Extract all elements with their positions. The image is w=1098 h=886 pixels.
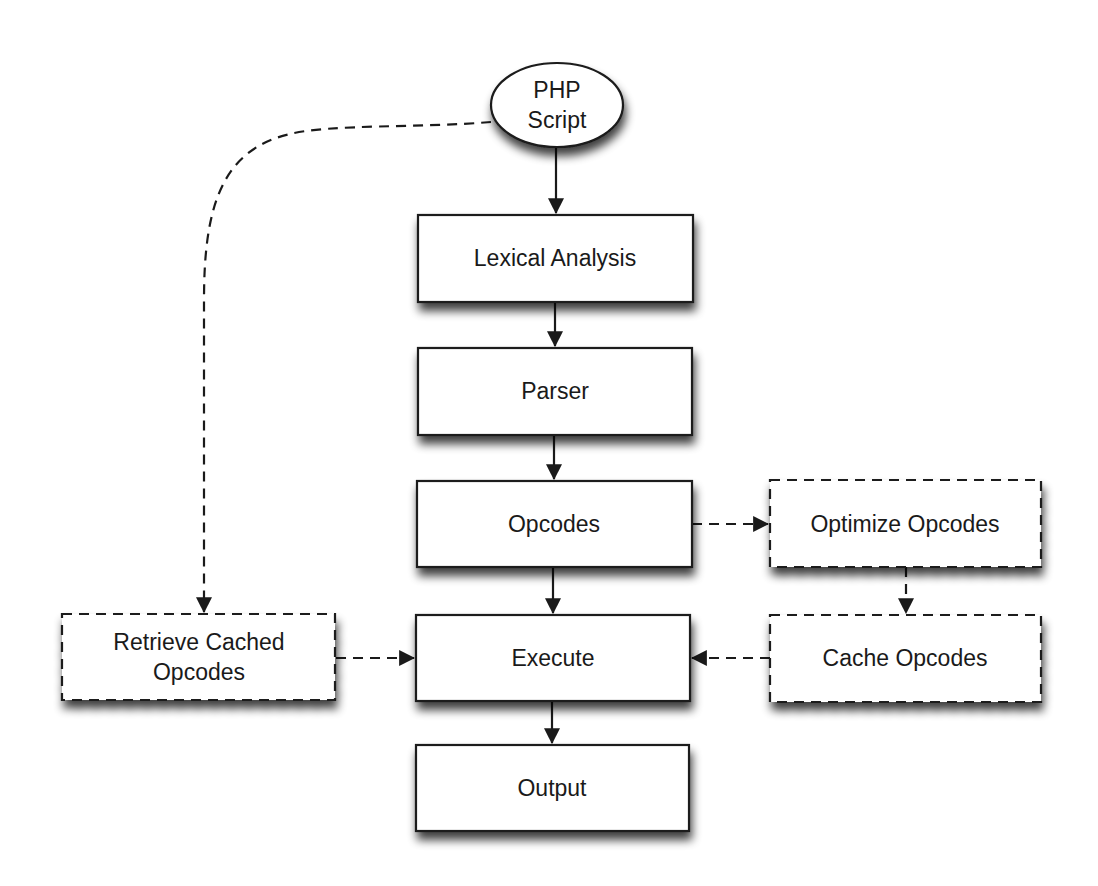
node-cache-opcodes: Cache Opcodes <box>770 615 1041 702</box>
node-lexical-analysis: Lexical Analysis <box>418 215 693 302</box>
php-script-label-line2: Script <box>528 107 587 133</box>
opcodes-label: Opcodes <box>508 511 600 537</box>
php-script-label-line1: PHP <box>533 77 580 103</box>
lexical-analysis-label: Lexical Analysis <box>474 245 636 271</box>
output-label: Output <box>517 775 587 801</box>
retrieve-cached-opcodes-label-line2: Opcodes <box>153 659 245 685</box>
optimize-opcodes-label: Optimize Opcodes <box>810 511 999 537</box>
node-parser: Parser <box>418 348 692 435</box>
node-opcodes: Opcodes <box>417 481 692 567</box>
node-php-script: PHP Script <box>491 63 623 147</box>
flowchart-diagram: PHP Script Lexical Analysis Parser Opcod… <box>0 0 1098 886</box>
execute-label: Execute <box>511 645 594 671</box>
retrieve-cached-opcodes-label-line1: Retrieve Cached <box>113 629 284 655</box>
node-retrieve-cached-opcodes: Retrieve Cached Opcodes <box>62 614 335 700</box>
node-output: Output <box>416 745 689 831</box>
parser-label: Parser <box>521 378 589 404</box>
cache-opcodes-label: Cache Opcodes <box>823 645 988 671</box>
node-execute: Execute <box>416 615 690 701</box>
node-optimize-opcodes: Optimize Opcodes <box>770 480 1041 567</box>
